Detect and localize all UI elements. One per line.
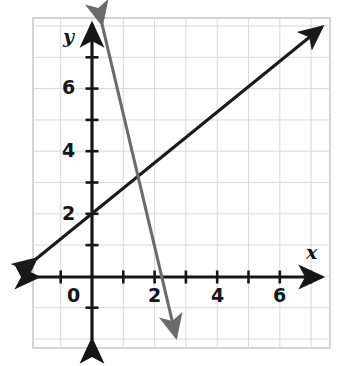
y-axis-label: y [63,27,74,46]
y-tick-label-2: 2 [62,204,75,223]
y-tick-label-6: 6 [62,78,75,97]
x-tick-label-4: 4 [211,286,224,305]
x-tick-label-2: 2 [148,286,161,305]
x-tick-label-6: 6 [273,286,286,305]
coordinate-plane-svg [0,0,360,366]
x-tick-label-0: 0 [67,286,80,305]
y-tick-label-4: 4 [62,141,75,160]
chart-figure: y x 6 4 2 0 2 4 6 [0,0,360,366]
x-axis-label: x [306,243,317,262]
